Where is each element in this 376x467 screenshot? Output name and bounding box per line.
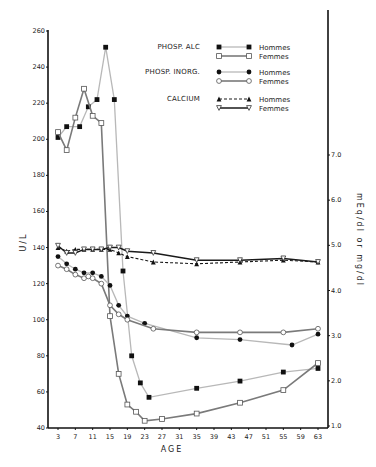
open-circle-marker-icon xyxy=(238,330,243,335)
legend-group-title: CALCIUM xyxy=(167,95,200,103)
right-tick-label: 6.0 xyxy=(331,196,341,204)
left-tick-label: 160 xyxy=(33,207,45,215)
filled-square-marker-icon xyxy=(194,386,199,391)
left-tick-label: 240 xyxy=(33,63,45,71)
open-circle-marker-icon xyxy=(217,79,222,84)
filled-triangle-marker-icon xyxy=(247,97,252,102)
open-square-marker-icon xyxy=(160,417,165,422)
left-tick-label: 260 xyxy=(33,27,45,35)
open-circle-marker-icon xyxy=(90,276,95,281)
left-tick-label: 60 xyxy=(37,388,45,396)
x-tick-label: 55 xyxy=(279,433,287,441)
filled-square-marker-icon xyxy=(103,45,108,50)
left-tick-label: 220 xyxy=(33,99,45,107)
open-square-marker-icon xyxy=(281,388,286,393)
legend-entry-label: Femmes xyxy=(259,78,289,86)
filled-circle-marker-icon xyxy=(217,70,222,75)
right-axis-title: mEq/dl or mg/dl xyxy=(355,193,364,287)
filled-circle-marker-icon xyxy=(64,261,69,266)
open-circle-marker-icon xyxy=(247,79,252,84)
left-tick-label: 100 xyxy=(33,316,45,324)
x-tick-label: 27 xyxy=(158,433,166,441)
right-tick-label: 4.0 xyxy=(331,287,341,295)
filled-circle-marker-icon xyxy=(194,335,199,340)
open-circle-marker-icon xyxy=(108,303,113,308)
open-circle-marker-icon xyxy=(64,267,69,272)
legend-entry-label: Hommes xyxy=(259,96,290,104)
open-circle-marker-icon xyxy=(151,326,156,331)
x-tick-label: 11 xyxy=(89,433,97,441)
filled-square-marker-icon xyxy=(64,124,69,129)
x-tick-label: 63 xyxy=(314,433,322,441)
filled-circle-marker-icon xyxy=(316,332,321,337)
series-phosp-inorg-hommes xyxy=(56,254,321,347)
open-circle-marker-icon xyxy=(194,330,199,335)
left-tick-label: 140 xyxy=(33,244,45,252)
open-square-marker-icon xyxy=(64,148,69,153)
filled-circle-marker-icon xyxy=(99,274,104,279)
open-circle-marker-icon xyxy=(316,326,321,331)
open-square-marker-icon xyxy=(108,314,113,319)
filled-square-marker-icon xyxy=(238,379,243,384)
filled-square-marker-icon xyxy=(247,45,252,50)
open-square-marker-icon xyxy=(90,113,95,118)
x-tick-label: 35 xyxy=(193,433,201,441)
series-line xyxy=(58,246,318,262)
legend-entry-label: Hommes xyxy=(259,69,290,77)
filled-square-marker-icon xyxy=(138,380,143,385)
filled-square-marker-icon xyxy=(95,97,100,102)
x-axis-title: AGE xyxy=(161,445,184,454)
legend-entry-label: Hommes xyxy=(259,44,290,52)
left-tick-label: 40 xyxy=(37,424,45,432)
legend-group-title: PHOSP. ALC xyxy=(157,43,200,51)
x-tick-label: 7 xyxy=(73,433,77,441)
chart: 4060801001201401601802002202402601.02.03… xyxy=(0,0,376,467)
x-tick-label: 3 xyxy=(56,433,60,441)
right-tick-label: 3.0 xyxy=(331,332,341,340)
right-tick-label: 7.0 xyxy=(331,151,341,159)
open-square-marker-icon xyxy=(142,418,147,423)
filled-circle-marker-icon xyxy=(90,270,95,275)
open-circle-marker-icon xyxy=(125,317,130,322)
x-tick-label: 59 xyxy=(297,433,305,441)
left-tick-label: 80 xyxy=(37,352,45,360)
filled-circle-marker-icon xyxy=(290,343,295,348)
open-square-marker-icon xyxy=(82,86,87,91)
open-circle-marker-icon xyxy=(116,312,121,317)
filled-square-marker-icon xyxy=(121,269,126,274)
filled-square-marker-icon xyxy=(129,353,134,358)
filled-circle-marker-icon xyxy=(82,270,87,275)
open-square-marker-icon xyxy=(56,130,61,135)
right-tick-label: 2.0 xyxy=(331,377,341,385)
filled-square-marker-icon xyxy=(281,370,286,375)
open-circle-marker-icon xyxy=(73,272,78,277)
open-square-marker-icon xyxy=(73,115,78,120)
filled-circle-marker-icon xyxy=(247,70,252,75)
legend-entry-label: Femmes xyxy=(259,105,289,113)
filled-circle-marker-icon xyxy=(238,337,243,342)
open-square-marker-icon xyxy=(217,54,222,59)
filled-circle-marker-icon xyxy=(108,283,113,288)
x-tick-label: 39 xyxy=(210,433,218,441)
open-square-marker-icon xyxy=(125,402,130,407)
filled-circle-marker-icon xyxy=(56,254,61,259)
series-line xyxy=(58,266,318,333)
x-tick-label: 31 xyxy=(175,433,183,441)
open-square-marker-icon xyxy=(238,400,243,405)
filled-square-marker-icon xyxy=(147,395,152,400)
x-tick-label: 15 xyxy=(106,433,114,441)
filled-square-marker-icon xyxy=(77,124,82,129)
filled-triangle-marker-icon xyxy=(125,254,130,259)
right-tick-label: 1.0 xyxy=(331,422,341,430)
filled-square-marker-icon xyxy=(316,366,321,371)
right-tick-label: 5.0 xyxy=(331,241,341,249)
filled-triangle-marker-icon xyxy=(116,251,121,256)
open-circle-marker-icon xyxy=(281,330,286,335)
left-tick-label: 120 xyxy=(33,280,45,288)
x-tick-label: 19 xyxy=(123,433,131,441)
series-line xyxy=(58,89,318,421)
x-tick-label: 51 xyxy=(262,433,270,441)
filled-square-marker-icon xyxy=(112,97,117,102)
filled-circle-marker-icon xyxy=(73,267,78,272)
filled-square-marker-icon xyxy=(217,45,222,50)
